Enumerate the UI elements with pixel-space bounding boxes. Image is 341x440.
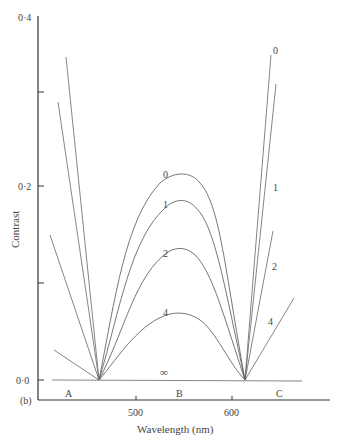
series-infinity-line — [52, 380, 302, 381]
series-4-region-b — [99, 313, 245, 380]
y-tick-label-0.2: 0·2 — [18, 181, 31, 192]
x-axis-title: Wavelength (nm) — [137, 423, 214, 436]
contrast-chart: 0·4 0·2 0·0 500 600 Wavelength (nm) Cont… — [0, 0, 341, 440]
series-label-2-c: 2 — [272, 261, 277, 272]
y-axis-title: Contrast — [9, 211, 21, 248]
series-2-region-c — [245, 231, 273, 380]
panel-label: (b) — [20, 395, 32, 407]
region-label-a: A — [65, 388, 73, 399]
series-label-4-b: 4 — [163, 307, 168, 318]
region-a-lines — [50, 57, 99, 380]
series-label-2-b: 2 — [163, 248, 168, 259]
x-tick-label-600: 600 — [224, 407, 239, 418]
series-0-region-c — [245, 55, 271, 380]
series-label-4-c: 4 — [268, 316, 273, 327]
region-c-lines — [245, 55, 294, 380]
series-label-0-c: 0 — [273, 45, 278, 56]
series-label-0-b: 0 — [163, 169, 168, 180]
series-4-region-a — [54, 350, 99, 380]
series-label-1-b: 1 — [163, 199, 168, 210]
region-label-c: C — [276, 388, 283, 399]
series-infinity-label: ∞ — [160, 366, 168, 378]
series-2-region-b — [99, 248, 245, 380]
region-b-curves — [99, 174, 245, 380]
region-label-b: B — [176, 388, 183, 399]
x-tick-label-500: 500 — [128, 407, 143, 418]
y-tick-label-0.4: 0·4 — [18, 12, 31, 23]
y-tick-label-0.0: 0·0 — [16, 375, 29, 386]
series-label-1-c: 1 — [273, 182, 278, 193]
series-1-region-a — [58, 102, 99, 380]
